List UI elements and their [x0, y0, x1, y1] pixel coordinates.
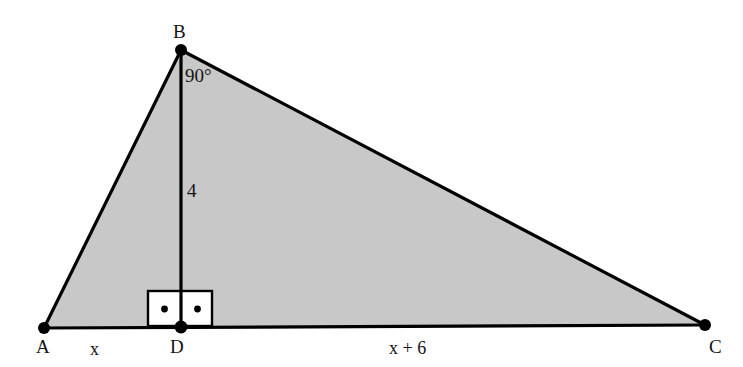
vertex-point-c [699, 319, 711, 331]
triangle-abc-fill [44, 50, 705, 328]
vertex-point-d [175, 321, 188, 334]
vertex-point-a [38, 322, 50, 334]
angle-label-90-degrees: 90° [185, 66, 212, 85]
segment-label-ad: x [90, 340, 99, 358]
right-angle-marker-dot-right [194, 306, 201, 313]
geometry-figure: B 90° 4 A x D x + 6 C [0, 0, 743, 367]
altitude-length-label: 4 [187, 181, 197, 200]
right-angle-marker-dot-left [161, 306, 168, 313]
vertex-label-b: B [173, 22, 186, 41]
segment-label-dc: x + 6 [389, 339, 426, 357]
vertex-label-c: C [709, 337, 722, 356]
triangle-diagram-canvas [0, 0, 743, 367]
vertex-point-b [175, 44, 187, 56]
vertex-label-d: D [170, 337, 184, 356]
vertex-label-a: A [36, 337, 50, 356]
